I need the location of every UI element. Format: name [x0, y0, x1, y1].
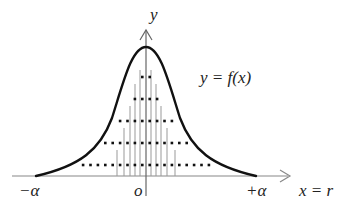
dot	[126, 164, 129, 167]
dot	[156, 98, 159, 101]
dot	[119, 164, 122, 167]
bell-curve-diagram: y y = f(x) −α o +α x = r	[0, 0, 338, 205]
dot	[156, 120, 159, 123]
dot	[148, 164, 151, 167]
dot	[141, 120, 144, 123]
dot	[163, 120, 166, 123]
dot	[119, 120, 122, 123]
dot	[89, 164, 92, 167]
right-limit-label: +α	[246, 181, 267, 200]
dot	[163, 164, 166, 167]
dot	[163, 142, 166, 145]
dot	[178, 142, 181, 145]
dot	[141, 164, 144, 167]
dot	[134, 164, 137, 167]
dot	[193, 164, 196, 167]
curve-label: y = f(x)	[198, 68, 251, 87]
dot	[148, 98, 151, 101]
origin-label: o	[134, 181, 143, 200]
dot	[97, 164, 100, 167]
y-axis	[140, 30, 152, 196]
dot	[141, 142, 144, 145]
dot	[126, 120, 129, 123]
dot	[134, 142, 137, 145]
dot	[126, 142, 129, 145]
y-axis-label: y	[148, 5, 158, 24]
dot	[148, 76, 151, 79]
x-axis-label: x = r	[298, 181, 334, 200]
dot	[148, 120, 151, 123]
dot	[111, 164, 114, 167]
dot	[82, 164, 85, 167]
dot	[104, 164, 107, 167]
dot	[171, 164, 174, 167]
dot	[104, 142, 107, 145]
dot	[200, 164, 203, 167]
dot	[156, 164, 159, 167]
dot	[156, 142, 159, 145]
dot	[185, 142, 188, 145]
dot	[178, 164, 181, 167]
dot	[171, 142, 174, 145]
dot	[148, 142, 151, 145]
dot	[119, 142, 122, 145]
dot	[185, 164, 188, 167]
dot	[208, 164, 211, 167]
dot	[141, 98, 144, 101]
dot	[134, 120, 137, 123]
dot	[171, 120, 174, 123]
left-limit-label: −α	[19, 181, 40, 200]
dot	[111, 142, 114, 145]
dot	[134, 98, 137, 101]
dot	[141, 76, 144, 79]
